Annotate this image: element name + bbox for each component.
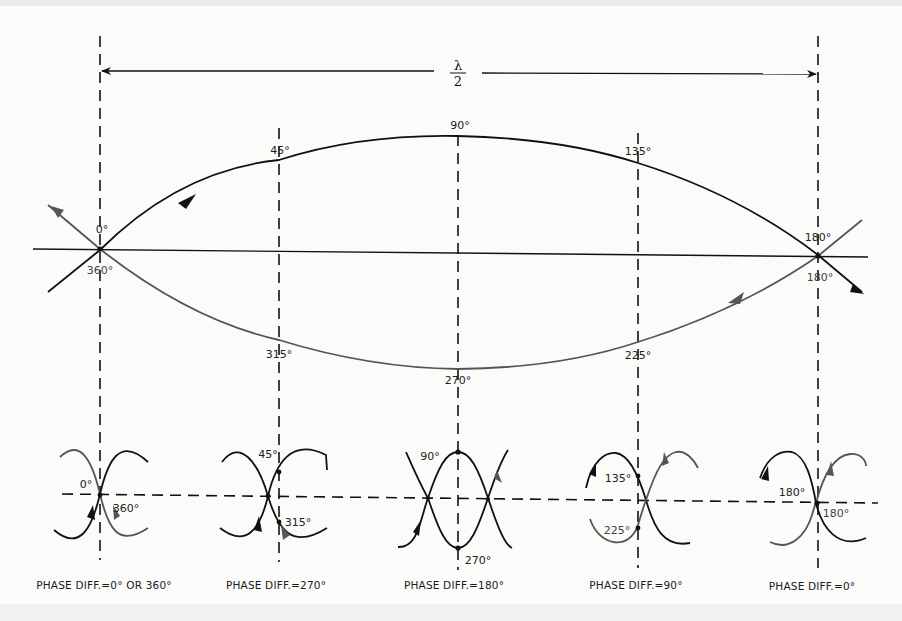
label-315: 315° <box>266 348 293 361</box>
panel1-lower-label: 360° <box>113 502 140 515</box>
panel5-upper-label: 180° <box>779 486 806 499</box>
panel4-dot-225 <box>636 526 641 531</box>
panel3-node-right <box>486 497 490 501</box>
label-270: 270° <box>445 374 472 387</box>
diagram-canvas: λ 2 0° 45° 90° 135° 180° 360° 315° 270° <box>0 0 902 621</box>
lower-phase-arc <box>48 205 862 369</box>
panel-phase-270: 45° 315° PHASE DIFF.=270° <box>220 448 327 591</box>
panel1-upper-label: 0° <box>80 478 93 491</box>
panel2-node-dot <box>266 494 271 499</box>
dimension-arrow-right <box>482 73 816 74</box>
panel5-black-wave <box>760 452 866 542</box>
label-180-upper: 180° <box>805 231 832 244</box>
half-wavelength-dimension: λ 2 <box>102 58 816 89</box>
phase-diagram: λ 2 0° 45° 90° 135° 180° 360° 315° 270° <box>0 0 902 621</box>
panel3-black-arrow-icon <box>413 520 421 536</box>
panel5-node-dot <box>814 500 819 505</box>
panel-phase-0: 0° 360° PHASE DIFF.=0° OR 360° <box>36 450 172 591</box>
panel4-caption: PHASE DIFF.=90° <box>589 579 682 591</box>
panel2-dot-315 <box>277 520 282 525</box>
panel3-gray-wave <box>406 450 508 548</box>
panel2-caption: PHASE DIFF.=270° <box>226 579 326 591</box>
panel3-lower-label: 270° <box>465 554 492 567</box>
panel4-upper-label: 135° <box>605 472 632 485</box>
lambda-denominator: 2 <box>454 74 462 89</box>
arc-direction-arrow-icon <box>178 194 196 209</box>
panel5-caption: PHASE DIFF.=0° <box>769 580 856 592</box>
upper-arc-labels: 0° 45° 90° 135° 180° <box>96 119 832 244</box>
panel4-lower-label: 225° <box>604 524 631 537</box>
panel1-node-dot <box>98 493 103 498</box>
panel4-dot-135 <box>636 474 641 479</box>
panel2-black-wave-a <box>222 452 327 537</box>
panel-phase-90: 135° 225° PHASE DIFF.=90° <box>586 452 698 591</box>
panel3-dot-90 <box>455 449 460 454</box>
panel-phase-0-end: 180° 180° PHASE DIFF.=0° <box>760 452 866 592</box>
panel3-caption: PHASE DIFF.=180° <box>404 579 504 591</box>
label-90: 90° <box>450 119 470 132</box>
label-45: 45° <box>270 144 290 157</box>
panel3-node-left <box>426 496 430 500</box>
label-225: 225° <box>625 349 652 362</box>
horizontal-axis <box>33 249 868 257</box>
panel4-gray-arrow-icon <box>662 452 669 466</box>
panel5-lower-label: 180° <box>823 507 850 520</box>
panel2-upper-label: 45° <box>258 448 278 461</box>
node-dot-left <box>97 246 102 251</box>
panel2-dot-45 <box>277 470 282 475</box>
panel1-black-arrow-icon <box>87 505 95 520</box>
panel3-dot-270 <box>455 545 460 550</box>
label-360: 360° <box>87 264 114 277</box>
label-180-lower: 180° <box>807 271 834 284</box>
panel2-lower-label: 315° <box>285 516 312 529</box>
panel1-gray-wave <box>60 450 148 536</box>
panel-phase-180: 90° 270° PHASE DIFF.=180° <box>398 449 512 591</box>
node-dot-right <box>815 253 820 258</box>
label-135: 135° <box>625 145 652 158</box>
arc-end-arrow-icon <box>850 284 864 294</box>
panel1-caption: PHASE DIFF.=0° OR 360° <box>36 579 172 591</box>
arc-direction-arrow-gray-icon <box>728 292 744 304</box>
lambda-symbol: λ <box>454 58 462 73</box>
vertical-reference-lines <box>100 36 818 570</box>
panel-baseline <box>62 494 878 503</box>
panel3-upper-label: 90° <box>420 450 440 463</box>
label-0: 0° <box>96 223 109 236</box>
upper-phase-arc <box>48 136 862 292</box>
panel3-black-wave <box>398 452 512 548</box>
